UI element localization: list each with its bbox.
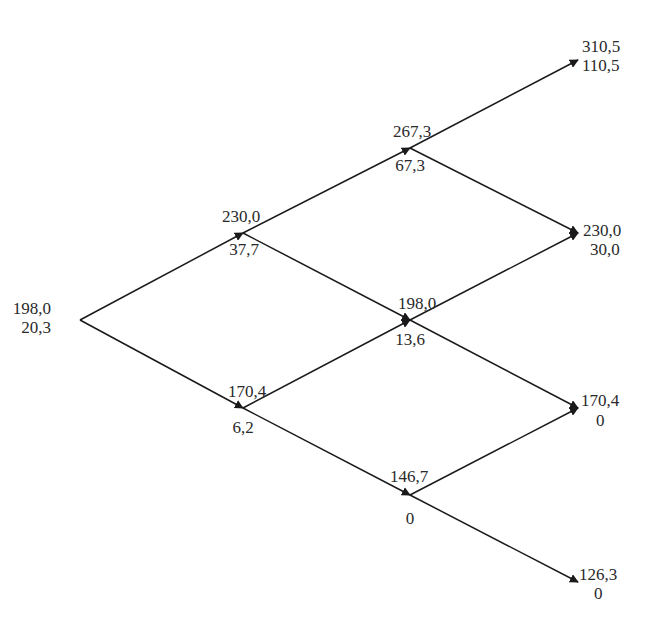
node-ud2-price: 198,0 [398, 294, 436, 313]
node-uud3-price: 230,0 [583, 221, 621, 240]
edge-dd2-udd3 [410, 408, 578, 495]
node-n0-price: 198,0 [13, 299, 51, 318]
node-ud2-value: 13,6 [395, 330, 425, 349]
edge-u1-uu2 [243, 148, 410, 233]
edge-uu2-uuu3 [410, 60, 578, 148]
node-d1-value: 6,2 [232, 418, 253, 437]
node-ddd3-price: 126,3 [579, 565, 617, 584]
edge-n0-d1 [80, 320, 243, 408]
edge-d1-ud2 [243, 320, 410, 408]
binomial-tree-diagram [0, 0, 663, 640]
edge-d1-dd2 [243, 408, 410, 495]
node-uuu3-value: 110,5 [582, 56, 620, 75]
edge-dd2-ddd3 [410, 495, 578, 582]
edge-ud2-udd3 [410, 320, 578, 408]
edge-u1-ud2 [243, 233, 410, 320]
node-n0-value: 20,3 [21, 318, 51, 337]
node-uud3-value: 30,0 [590, 240, 620, 259]
node-u1-value: 37,7 [229, 240, 259, 259]
node-uuu3-price: 310,5 [582, 37, 620, 56]
node-uu2-value: 67,3 [395, 156, 425, 175]
node-d1-price: 170,4 [228, 382, 266, 401]
node-dd2-value: 0 [406, 509, 415, 528]
edge-uu2-uud3 [410, 148, 578, 233]
node-udd3-price: 170,4 [581, 391, 619, 410]
node-udd3-value: 0 [596, 411, 605, 430]
node-u1-price: 230,0 [222, 207, 260, 226]
node-dd2-price: 146,7 [390, 467, 428, 486]
node-ddd3-value: 0 [594, 584, 603, 603]
edge-n0-u1 [80, 233, 243, 320]
node-uu2-price: 267,3 [393, 122, 431, 141]
